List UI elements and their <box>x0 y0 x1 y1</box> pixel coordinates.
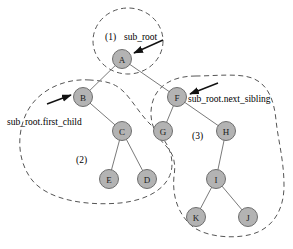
node-label-C: C <box>119 127 125 137</box>
node-label-K: K <box>193 213 200 223</box>
node-C: C <box>113 122 132 141</box>
node-label-I: I <box>215 175 218 185</box>
node-label-J: J <box>246 213 250 223</box>
pointer-first-child <box>47 95 71 104</box>
node-label-A: A <box>119 55 126 65</box>
label-sub-root-first-child: sub_root.first_child <box>7 117 82 127</box>
node-label-H: H <box>223 127 230 137</box>
diagram-canvas: A B C E D F G <box>0 0 293 249</box>
node-G: G <box>154 122 173 141</box>
label-sub-root: sub_root <box>124 32 158 42</box>
node-F: F <box>168 88 187 107</box>
node-A: A <box>113 50 132 69</box>
node-label-B: B <box>80 93 86 103</box>
group-tag-3: (3) <box>192 131 203 142</box>
node-B: B <box>74 88 93 107</box>
label-sub-root-next-sibling: sub_root.next_sibling <box>188 94 271 104</box>
node-K: K <box>187 208 206 227</box>
annotation-labels: sub_root sub_root.first_child sub_root.n… <box>7 32 271 127</box>
group-tag-2: (2) <box>76 155 87 166</box>
node-label-F: F <box>174 93 179 103</box>
group-tag-1: (1) <box>105 32 116 43</box>
node-I: I <box>207 170 226 189</box>
edge-A-F <box>122 59 177 97</box>
node-H: H <box>217 122 236 141</box>
node-label-G: G <box>160 127 167 137</box>
tree-nodes: A B C E D F G <box>74 50 258 227</box>
pointer-next-sibling <box>190 83 218 94</box>
node-E: E <box>100 170 119 189</box>
node-label-D: D <box>144 175 151 185</box>
node-D: D <box>138 170 157 189</box>
node-J: J <box>239 208 258 227</box>
tree-diagram: A B C E D F G <box>0 0 293 249</box>
node-label-E: E <box>106 175 112 185</box>
